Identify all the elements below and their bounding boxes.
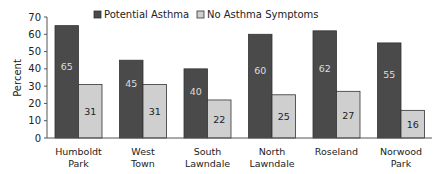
bar-value-label: 25	[278, 111, 290, 122]
bar	[55, 26, 79, 138]
y-tick-label: 30	[28, 81, 41, 92]
bar-value-label: 16	[407, 119, 419, 130]
bar-groups: 653145314022602562275516	[55, 26, 425, 138]
x-tick-label: Norwood	[380, 146, 422, 157]
bar-value-label: 65	[61, 61, 73, 72]
bar-group: 4531	[120, 60, 167, 138]
y-tick-label: 70	[28, 12, 41, 23]
y-tick-label: 0	[35, 133, 41, 144]
y-tick-label: 20	[28, 98, 41, 109]
x-tick-label: Lawndale	[185, 158, 230, 169]
bar	[378, 43, 402, 138]
y-tick-label: 50	[28, 46, 41, 57]
bar-value-label: 45	[125, 78, 137, 89]
bar-value-label: 27	[342, 110, 354, 121]
y-tick-label: 60	[28, 29, 41, 40]
bar-group: 5516	[378, 43, 425, 138]
bar	[249, 34, 273, 138]
x-tick-label: South	[194, 146, 222, 157]
x-tick-label: Park	[391, 158, 412, 169]
bar-chart: Potential AsthmaNo Asthma Symptoms 01020…	[0, 0, 446, 174]
bar-value-label: 22	[213, 114, 225, 125]
bar-group: 6025	[249, 34, 296, 138]
x-tick-label: Park	[68, 158, 89, 169]
bar-value-label: 55	[383, 69, 395, 80]
x-tick-label: Town	[130, 158, 155, 169]
bar	[184, 69, 208, 138]
bar-group: 6227	[313, 31, 360, 138]
bar-value-label: 60	[254, 65, 266, 76]
legend-swatch	[94, 11, 101, 18]
bar	[313, 31, 337, 138]
legend-label: No Asthma Symptoms	[207, 9, 318, 20]
y-axis: 010203040506070	[28, 12, 47, 144]
x-tick-label: Humboldt	[55, 146, 102, 157]
x-tick-label: Roseland	[315, 146, 358, 157]
bar-value-label: 31	[84, 106, 96, 117]
bar-value-label: 31	[149, 106, 161, 117]
bar-group: 4022	[184, 69, 231, 138]
bar-group: 6531	[55, 26, 102, 138]
y-tick-label: 40	[28, 63, 41, 74]
y-axis-label: Percent	[12, 59, 23, 97]
y-tick-label: 10	[28, 115, 41, 126]
legend-label: Potential Asthma	[104, 9, 189, 20]
x-tick-label: Lawndale	[249, 158, 294, 169]
x-tick-label: North	[259, 146, 286, 157]
bar-value-label: 62	[319, 63, 331, 74]
x-axis: HumboldtParkWestTownSouthLawndaleNorthLa…	[47, 138, 432, 169]
bar	[120, 60, 144, 138]
x-tick-label: West	[131, 146, 155, 157]
chart-legend: Potential AsthmaNo Asthma Symptoms	[94, 9, 318, 20]
legend-swatch	[197, 11, 204, 18]
bar-value-label: 40	[190, 86, 202, 97]
